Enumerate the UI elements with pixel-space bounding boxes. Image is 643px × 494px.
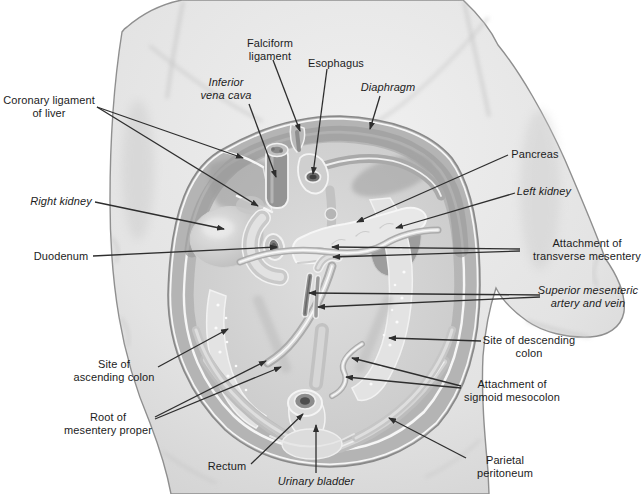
rectum-shape — [288, 390, 325, 432]
abdominal-cavity — [168, 116, 480, 467]
figure: FalciformligamentEsophagusInferiorvena c… — [0, 0, 643, 494]
anatomy-illustration — [0, 0, 643, 494]
inferior-vena-cava-shape — [266, 144, 288, 209]
